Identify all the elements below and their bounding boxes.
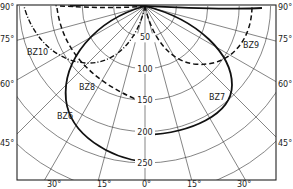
curve-bz6-upper bbox=[145, 6, 262, 9]
bz-curves bbox=[24, 5, 262, 162]
right-angle-label: 45° bbox=[278, 140, 292, 148]
radial-label-150: 150 bbox=[137, 96, 152, 105]
diagram-frame bbox=[17, 5, 276, 180]
curve-bz6 bbox=[66, 6, 145, 162]
bottom-angle-label: 15° bbox=[97, 181, 111, 189]
right-angle-label: 75° bbox=[278, 36, 292, 44]
curve-label-bz9: BZ9 bbox=[243, 42, 259, 50]
right-angle-label: 60° bbox=[278, 81, 292, 89]
curve-label-bz7: BZ7 bbox=[209, 94, 225, 102]
radial-label-250: 250 bbox=[137, 159, 152, 168]
curve-bz9 bbox=[145, 6, 252, 64]
right-angle-label: 90° bbox=[278, 4, 292, 12]
bottom-angle-label: 15° bbox=[187, 181, 201, 189]
ring-250 bbox=[0, 6, 293, 163]
curve-bz7 bbox=[145, 6, 232, 135]
bottom-angle-label: 30° bbox=[47, 181, 61, 189]
left-angle-label: 45° bbox=[0, 140, 14, 148]
left-angle-label: 75° bbox=[0, 36, 14, 44]
bottom-angle-label: 0° bbox=[142, 181, 151, 189]
curve-label-bz6: BZ6 bbox=[57, 113, 73, 121]
curve-bz8 bbox=[56, 6, 145, 103]
radial-label-200: 200 bbox=[137, 128, 152, 137]
radial-label-50: 50 bbox=[140, 33, 150, 42]
polar-diagram: 50100150200250 bbox=[0, 0, 293, 189]
left-angle-label: 90° bbox=[0, 4, 14, 12]
left-angle-label: 60° bbox=[0, 81, 14, 89]
curve-label-bz8: BZ8 bbox=[79, 84, 95, 92]
bottom-angle-label: 30° bbox=[237, 181, 251, 189]
radial-label-100: 100 bbox=[137, 65, 152, 74]
curve-label-bz10: BZ10 bbox=[27, 49, 48, 57]
